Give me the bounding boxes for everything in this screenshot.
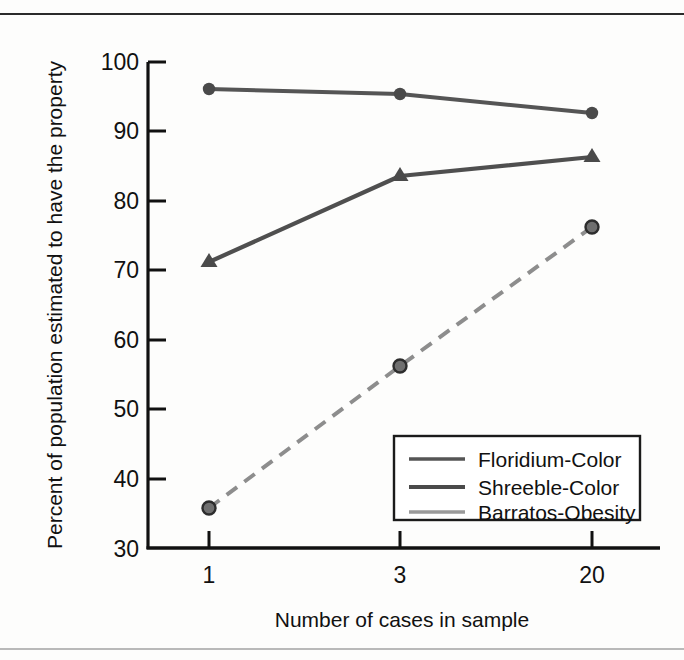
y-tick-label-50: 50: [113, 396, 139, 422]
y-tick-label-80: 80: [113, 188, 139, 214]
chart-legend: Floridium-Color Shreeble-Color Barratos-…: [394, 436, 640, 524]
data-point-floridium-20: [586, 107, 598, 119]
legend-label-shreeble-color: Shreeble-Color: [478, 476, 619, 499]
x-tick-label-20: 20: [579, 562, 605, 588]
x-tick-label-3: 3: [394, 562, 407, 588]
data-point-barratos-1: [203, 502, 216, 515]
y-tick-label-100: 100: [101, 49, 139, 75]
y-tick-label-40: 40: [113, 466, 139, 492]
legend-label-barratos-obesity: Barratos-Obesity: [478, 501, 636, 524]
y-axis-title: Percent of population estimated to have …: [43, 61, 66, 549]
y-tick-label-30: 30: [113, 536, 139, 562]
y-tick-label-70: 70: [113, 257, 139, 283]
x-axis-tick-labels: 1 3 20: [203, 562, 605, 588]
series-floridium-color: [203, 83, 598, 119]
line-chart: 100 90 80 70 60 50 40 30 1 3 20 Number o…: [0, 0, 684, 660]
x-tick-label-1: 1: [203, 562, 216, 588]
data-point-barratos-20: [586, 221, 599, 234]
series-shreeble-color: [201, 148, 601, 267]
figure-panel: 100 90 80 70 60 50 40 30 1 3 20 Number o…: [0, 0, 684, 660]
x-axis-ticks: [209, 531, 592, 548]
x-axis-title: Number of cases in sample: [275, 608, 529, 631]
legend-label-floridium-color: Floridium-Color: [478, 448, 622, 471]
data-point-floridium-3: [394, 88, 406, 100]
y-axis-ticks: [148, 62, 166, 479]
y-tick-label-60: 60: [113, 327, 139, 353]
data-point-floridium-1: [203, 83, 215, 95]
data-point-shreeble-20: [584, 148, 601, 162]
data-point-barratos-3: [394, 360, 407, 373]
y-tick-label-90: 90: [113, 118, 139, 144]
y-axis-tick-labels: 100 90 80 70 60 50 40 30: [101, 49, 139, 562]
